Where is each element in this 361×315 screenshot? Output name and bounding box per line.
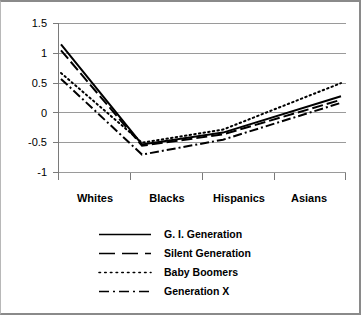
y-tick-label-2: 0.5 — [11, 78, 47, 89]
x-tick-label-hispanics: Hispanics — [203, 193, 275, 204]
series-line-gi-generation — [61, 44, 341, 144]
x-tick-label-whites: Whites — [59, 193, 131, 204]
series-line-generation-x — [61, 79, 341, 155]
legend-label-silent-generation: Silent Generation — [164, 248, 251, 259]
legend-label-generation-x: Generation X — [164, 286, 229, 297]
legend-label-gi-generation: G. I. Generation — [164, 229, 242, 240]
series-line-silent-generation — [61, 50, 341, 145]
y-tick-label-3: 0 — [11, 108, 47, 119]
y-tick-label-4: -0.5 — [11, 137, 47, 148]
y-tick-label-0: 1.5 — [11, 18, 47, 29]
y-tick-marks — [53, 24, 58, 173]
chart-frame: 1.5 1 0.5 0 -0.5 -1 Whites Blacks Hispan… — [0, 0, 361, 315]
x-tick-label-blacks: Blacks — [131, 193, 203, 204]
y-tick-label-5: -1 — [11, 167, 47, 178]
chart-plot-area: 1.5 1 0.5 0 -0.5 -1 Whites Blacks Hispan… — [1, 2, 361, 315]
x-tick-marks — [59, 173, 346, 180]
y-tick-label-1: 1 — [11, 48, 47, 59]
legend-label-baby-boomers: Baby Boomers — [164, 267, 238, 278]
legend-sample-lines — [99, 235, 151, 292]
x-tick-label-asians: Asians — [273, 193, 345, 204]
